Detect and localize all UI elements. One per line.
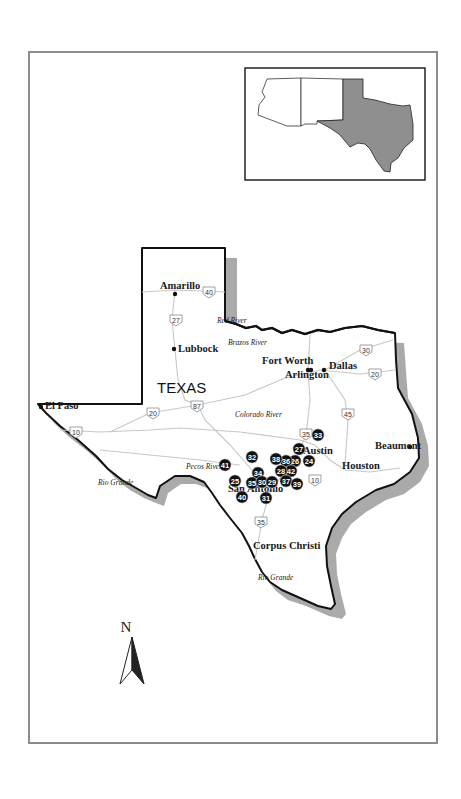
site-marker-41[interactable]: 41 <box>219 459 231 471</box>
river-label: Colorado River <box>235 410 282 419</box>
svg-text:35: 35 <box>302 431 310 438</box>
north-label: N <box>121 619 132 635</box>
svg-text:28: 28 <box>277 467 285 476</box>
state-label: TEXAS <box>157 379 206 396</box>
river-label: Brazos River <box>228 338 267 347</box>
north-arrow: N <box>120 619 144 684</box>
svg-text:36: 36 <box>282 457 290 466</box>
north-arrow-left-half-icon <box>120 637 132 684</box>
svg-text:42: 42 <box>287 467 295 476</box>
svg-text:39: 39 <box>293 480 301 489</box>
svg-text:30: 30 <box>258 478 266 487</box>
svg-text:25: 25 <box>231 477 239 486</box>
svg-text:38: 38 <box>272 455 280 464</box>
river-label: Red River <box>216 316 247 325</box>
svg-text:40: 40 <box>238 493 246 502</box>
svg-text:37: 37 <box>282 477 290 486</box>
river-label: Rio Grande <box>257 573 294 582</box>
site-marker-33[interactable]: 33 <box>312 429 324 441</box>
city-label: Amarillo <box>160 280 200 291</box>
svg-text:45: 45 <box>344 411 352 418</box>
svg-text:35: 35 <box>257 519 265 526</box>
site-marker-39[interactable]: 39 <box>291 478 303 490</box>
inset-locator-map <box>245 68 425 180</box>
city-dot <box>39 405 43 409</box>
site-marker-40[interactable]: 40 <box>236 491 248 503</box>
site-marker-38[interactable]: 38 <box>270 453 282 465</box>
svg-text:29: 29 <box>268 478 276 487</box>
svg-text:20: 20 <box>149 410 157 417</box>
site-marker-32[interactable]: 32 <box>246 451 258 463</box>
river-label: Pecos River <box>185 462 222 471</box>
svg-text:87: 87 <box>193 403 201 410</box>
svg-text:35: 35 <box>248 479 256 488</box>
svg-text:27: 27 <box>295 445 303 454</box>
site-marker-37[interactable]: 37 <box>280 475 292 487</box>
inset-new-mexico-shape <box>301 78 343 126</box>
city-dot <box>322 368 326 372</box>
city-label: Fort Worth <box>262 355 314 366</box>
svg-text:10: 10 <box>311 477 319 484</box>
svg-text:32: 32 <box>248 453 256 462</box>
city-label: El Paso <box>45 400 79 411</box>
svg-text:30: 30 <box>362 347 370 354</box>
svg-text:27: 27 <box>172 317 180 324</box>
city-label: Dallas <box>329 360 357 371</box>
svg-text:31: 31 <box>262 494 270 503</box>
site-marker-27[interactable]: 27 <box>293 443 305 455</box>
svg-text:20: 20 <box>371 371 379 378</box>
svg-text:33: 33 <box>314 431 322 440</box>
city-label: Lubbock <box>178 343 218 354</box>
site-marker-25[interactable]: 25 <box>229 475 241 487</box>
svg-text:10: 10 <box>72 429 80 436</box>
city-label: Austin <box>303 445 333 456</box>
svg-text:40: 40 <box>205 289 213 296</box>
city-label: Corpus Christi <box>253 540 320 551</box>
svg-text:24: 24 <box>305 457 314 466</box>
city-label: Houston <box>342 460 380 471</box>
svg-text:41: 41 <box>221 461 229 470</box>
site-marker-24[interactable]: 24 <box>303 455 315 467</box>
north-arrow-right-half-icon <box>132 637 144 684</box>
texas-map: 4027302087204510351035 Red RiverBrazos R… <box>0 0 461 799</box>
site-marker-31[interactable]: 31 <box>260 492 272 504</box>
city-dot <box>173 292 177 296</box>
city-label: Beaumont <box>375 440 422 451</box>
site-marker-29[interactable]: 29 <box>266 476 278 488</box>
city-dot <box>172 347 176 351</box>
river-label: Rio Grande <box>97 478 134 487</box>
